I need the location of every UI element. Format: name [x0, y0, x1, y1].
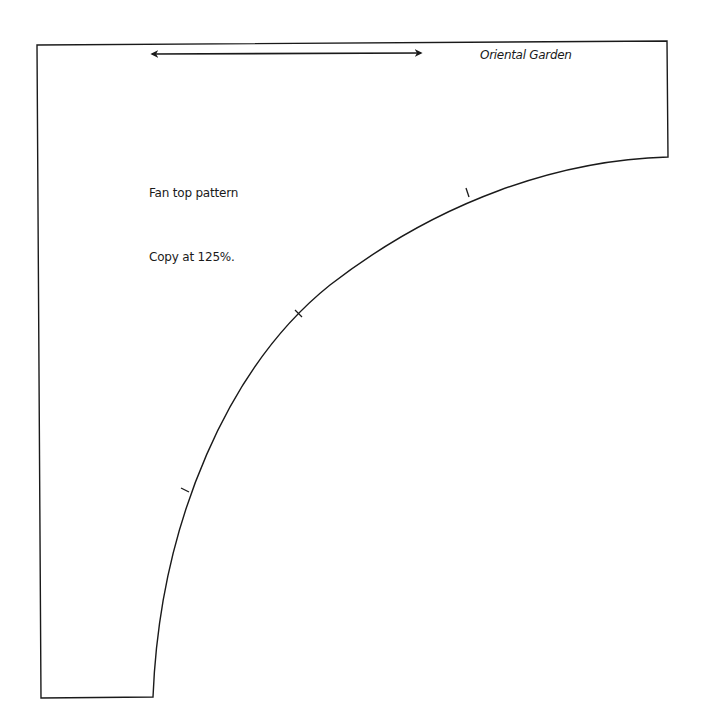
- copy-instruction: Copy at 125%.: [149, 250, 235, 264]
- pattern-diagram: [0, 0, 706, 728]
- notch-mark: [466, 188, 469, 197]
- notch-mark: [181, 488, 189, 492]
- grain-line-arrow-icon: [152, 53, 421, 54]
- pattern-name: Fan top pattern: [149, 186, 238, 200]
- pattern-outline: [37, 41, 668, 698]
- pattern-title: Oriental Garden: [480, 48, 572, 62]
